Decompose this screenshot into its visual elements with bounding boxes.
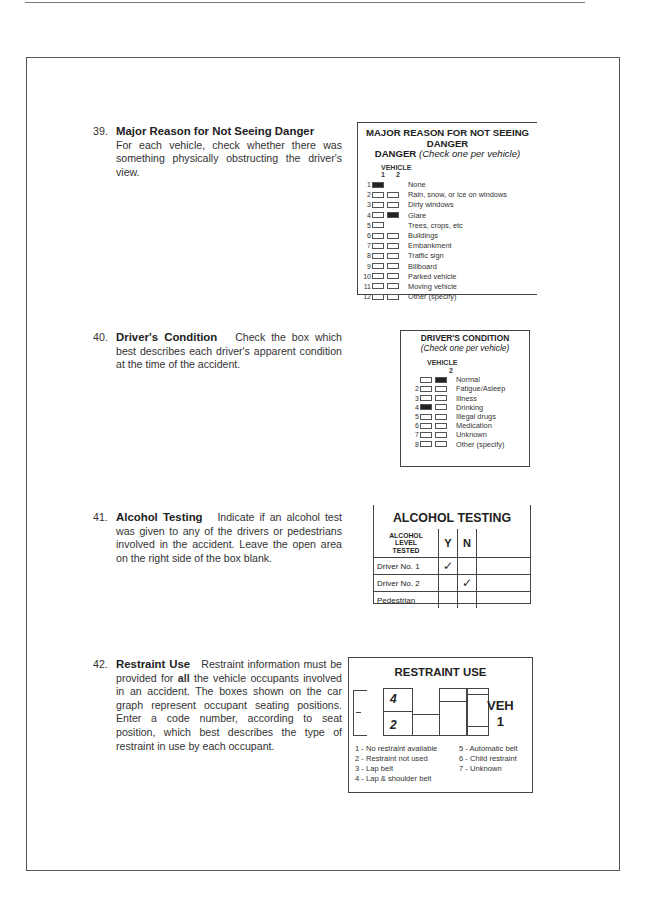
- box-title: MAJOR REASON FOR NOT SEEING DANGER DANGE…: [358, 128, 537, 160]
- vehicle-2-checkbox[interactable]: [387, 263, 399, 269]
- row-number: 6: [358, 232, 372, 239]
- row-number: 11: [358, 283, 372, 290]
- open-area: [477, 575, 531, 592]
- condition-rows: Normal2Fatigue/Asleep3Illness4Drinking5I…: [401, 375, 529, 449]
- yes-cell[interactable]: [439, 592, 458, 609]
- vehicle-2-checkbox[interactable]: [387, 253, 399, 259]
- list-item: 2Rain, snow, or ice on windows: [358, 190, 537, 200]
- seat-rear-right[interactable]: [439, 701, 467, 736]
- alcohol-table: ALCOHOLLEVELTESTED Y N Driver No. 1 ✓ Dr…: [374, 529, 530, 608]
- col-header-no: N: [458, 529, 477, 558]
- vehicle-1-checkbox[interactable]: [372, 243, 384, 249]
- restraint-use-box: RESTRAINT USE 4 2 VEH 1 1 - No restraint…: [348, 657, 533, 793]
- vehicle-1-checkbox[interactable]: [372, 294, 384, 300]
- vehicle-2-checkbox[interactable]: [387, 202, 399, 208]
- vehicle-2-checkbox[interactable]: [435, 377, 447, 383]
- vehicle-2-checkbox[interactable]: [387, 233, 399, 239]
- item-40: 40. Driver's Condition Check the box whi…: [116, 331, 342, 372]
- item-39: 39. Major Reason for Not Seeing Danger F…: [116, 125, 342, 179]
- list-item: Normal: [401, 375, 529, 384]
- vehicle-2-checkbox[interactable]: [435, 414, 447, 420]
- list-item: 3Dirty windows: [358, 200, 537, 210]
- vehicle-1-checkbox[interactable]: [372, 212, 384, 218]
- row-label: Fatigue/Asleep: [456, 384, 505, 393]
- vehicle-1-checkbox[interactable]: [372, 233, 384, 239]
- vehicle-1-checkbox[interactable]: [372, 182, 384, 188]
- seat-middle-right[interactable]: [412, 714, 440, 736]
- vehicle-1-checkbox[interactable]: [372, 253, 384, 259]
- driver-condition-box: DRIVER'S CONDITION (Check one per vehicl…: [400, 330, 530, 467]
- vehicle-1-checkbox[interactable]: [420, 423, 432, 429]
- row-label: Unknown: [456, 430, 487, 439]
- item-title: Alcohol Testing: [116, 511, 203, 523]
- vehicle-1-checkbox[interactable]: [372, 283, 384, 289]
- item-number: 41.: [93, 511, 108, 525]
- vehicle-2-checkbox[interactable]: [387, 243, 399, 249]
- vehicle-1-checkbox[interactable]: [420, 414, 432, 420]
- seat-front-right[interactable]: 2: [383, 711, 413, 736]
- no-cell[interactable]: [458, 592, 477, 609]
- vehicle-2-checkbox[interactable]: [435, 441, 447, 447]
- item-title: Driver's Condition: [116, 331, 217, 343]
- item-41: 41. Alcohol Testing Indicate if an alcoh…: [116, 511, 342, 565]
- vehicle-1-checkbox[interactable]: [420, 395, 432, 401]
- vehicle-1-checkbox[interactable]: [420, 441, 432, 447]
- row-label: Trees, crops, etc: [408, 221, 463, 230]
- seat-front-left[interactable]: 4: [383, 688, 413, 712]
- major-reason-box: MAJOR REASON FOR NOT SEEING DANGER DANGE…: [357, 122, 537, 295]
- vehicle-header: VEHICLE 2: [427, 359, 529, 374]
- vehicle-1-checkbox[interactable]: [420, 432, 432, 438]
- table-row: Driver No. 1 ✓: [374, 558, 530, 575]
- list-item: 8Traffic sign: [358, 251, 537, 261]
- vehicle-1-checkbox[interactable]: [372, 222, 384, 228]
- row-label: Embankment: [408, 241, 452, 250]
- item-42: 42. Restraint Use Restraint information …: [116, 658, 342, 753]
- row-number: 2: [401, 385, 420, 392]
- list-item: 12Other (specify): [358, 292, 537, 302]
- vehicle-2-checkbox[interactable]: [387, 192, 399, 198]
- row-number: 2: [358, 191, 372, 198]
- vehicle-2-checkbox[interactable]: [435, 386, 447, 392]
- vehicle-1-checkbox[interactable]: [372, 263, 384, 269]
- row-number: 9: [358, 263, 372, 270]
- row-label: Driver No. 1: [374, 558, 439, 575]
- row-number: 8: [358, 252, 372, 259]
- row-number: 12: [358, 293, 372, 300]
- row-label: Driver No. 2: [374, 575, 439, 592]
- vehicle-1-checkbox[interactable]: [420, 386, 432, 392]
- vehicle-1-checkbox[interactable]: [420, 377, 432, 383]
- list-item: 11Moving vehicle: [358, 281, 537, 291]
- vehicle-1-checkbox[interactable]: [372, 202, 384, 208]
- item-number: 40.: [93, 331, 108, 345]
- page-top-rule: [25, 2, 585, 3]
- vehicle-2-checkbox[interactable]: [435, 395, 447, 401]
- car-seating-diagram: 4 2: [353, 688, 473, 736]
- vehicle-1-checkbox[interactable]: [372, 192, 384, 198]
- vehicle-2-checkbox[interactable]: [387, 283, 399, 289]
- vehicle-2-checkbox[interactable]: [435, 423, 447, 429]
- table-row: Driver No. 2 ✓: [374, 575, 530, 592]
- list-item: 6Medication: [401, 421, 529, 430]
- vehicle-1-checkbox[interactable]: [372, 273, 384, 279]
- list-item: 2Fatigue/Asleep: [401, 384, 529, 393]
- list-item: 9Billboard: [358, 261, 537, 271]
- vehicle-2-checkbox[interactable]: [387, 212, 399, 218]
- item-number: 39.: [93, 125, 108, 139]
- col-header-yes: Y: [439, 529, 458, 558]
- row-label: Traffic sign: [408, 251, 444, 260]
- yes-cell[interactable]: [439, 575, 458, 592]
- row-number: 6: [401, 422, 420, 429]
- vehicle-2-checkbox[interactable]: [387, 273, 399, 279]
- vehicle-1-checkbox[interactable]: [420, 404, 432, 410]
- no-cell[interactable]: ✓: [458, 575, 477, 592]
- vehicle-2-checkbox[interactable]: [435, 404, 447, 410]
- vehicle-2-checkbox[interactable]: [435, 432, 447, 438]
- item-text: For each vehicle, check whether there wa…: [116, 139, 342, 180]
- no-cell[interactable]: [458, 558, 477, 575]
- vehicle-header: VEHICLE 12: [377, 164, 537, 179]
- row-label: Moving vehicle: [408, 282, 457, 291]
- yes-cell[interactable]: ✓: [439, 558, 458, 575]
- vehicle-2-checkbox[interactable]: [387, 294, 399, 300]
- seat-rear-left[interactable]: [439, 688, 467, 702]
- list-item: 4Drinking: [401, 403, 529, 412]
